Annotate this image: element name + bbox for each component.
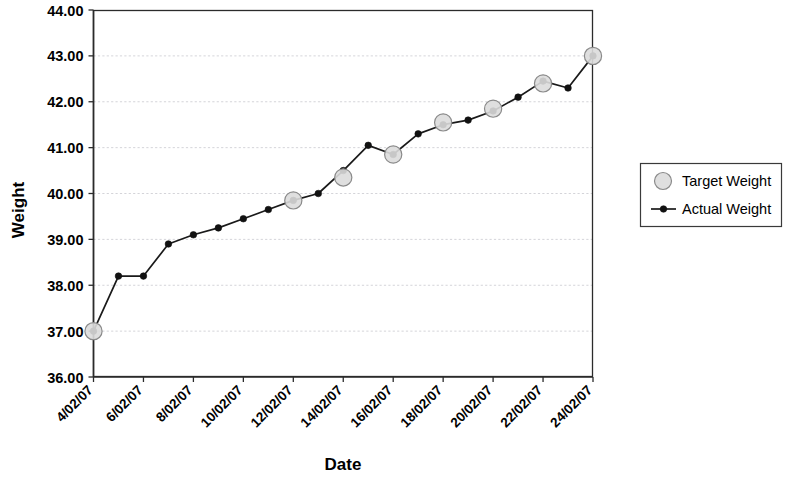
x-tick-label: 22/02/07	[497, 383, 545, 431]
x-axis-title: Date	[325, 455, 362, 474]
data-point-actual-weight	[565, 85, 572, 92]
data-point-actual-weight	[365, 142, 372, 149]
y-tick-label: 36.00	[47, 370, 83, 386]
data-point-actual-weight	[465, 117, 472, 124]
x-tick-label: 8/02/07	[153, 383, 195, 425]
legend-actual-weight-marker	[660, 206, 667, 213]
data-point-target-weight	[385, 146, 402, 163]
data-point-target-weight	[335, 169, 352, 186]
data-point-target-weight	[435, 114, 452, 131]
x-axis-title-text: Date	[325, 455, 362, 474]
legend-label-target-weight: Target Weight	[682, 173, 771, 189]
data-point-actual-weight	[240, 215, 247, 222]
y-tick-label: 39.00	[47, 232, 83, 248]
data-point-target-weight	[485, 100, 502, 117]
y-tick-labels: 36.0037.0038.0039.0040.0041.0042.0043.00…	[47, 3, 83, 386]
data-point-actual-weight	[190, 231, 197, 238]
x-tick-label: 4/02/07	[53, 383, 95, 425]
data-point-actual-weight	[415, 131, 422, 138]
y-tick-label: 40.00	[47, 186, 83, 202]
legend-target-weight-marker	[655, 173, 672, 190]
legend-label-actual-weight: Actual Weight	[682, 201, 771, 217]
series-target-weight-markers	[85, 47, 602, 339]
data-point-actual-weight	[265, 206, 272, 213]
x-tick-label: 10/02/07	[198, 383, 246, 431]
data-point-actual-weight	[115, 273, 122, 280]
data-point-actual-weight	[165, 241, 172, 248]
data-point-target-weight	[85, 323, 102, 340]
legend: Target Weight Actual Weight	[641, 164, 782, 227]
weight-chart: 36.0037.0038.0039.0040.0041.0042.0043.00…	[0, 0, 787, 486]
y-tick-label: 44.00	[47, 3, 83, 19]
y-tick-label: 43.00	[47, 48, 83, 64]
data-point-target-weight	[285, 192, 302, 209]
y-tick-label: 42.00	[47, 94, 83, 110]
data-point-target-weight	[534, 75, 551, 92]
x-tick-label: 16/02/07	[348, 383, 396, 431]
x-tick-label: 24/02/07	[547, 383, 595, 431]
y-tick-label: 38.00	[47, 278, 83, 294]
x-tick-label: 14/02/07	[298, 383, 346, 431]
x-tick-label: 12/02/07	[248, 383, 296, 431]
y-axis-title: Weight	[9, 181, 28, 238]
y-tick-label: 41.00	[47, 140, 83, 156]
chart-canvas: 36.0037.0038.0039.0040.0041.0042.0043.00…	[0, 0, 787, 486]
y-tick-label: 37.00	[47, 324, 83, 340]
x-tick-label: 6/02/07	[103, 383, 145, 425]
x-tick-label: 20/02/07	[447, 383, 495, 431]
x-tick-labels: 4/02/076/02/078/02/0710/02/0712/02/0714/…	[53, 383, 595, 431]
y-axis-title-text: Weight	[9, 181, 28, 238]
data-point-actual-weight	[315, 190, 322, 197]
data-point-actual-weight	[140, 273, 147, 280]
data-point-actual-weight	[215, 225, 222, 232]
data-point-actual-weight	[515, 94, 522, 101]
data-point-target-weight	[584, 47, 601, 64]
x-tick-label: 18/02/07	[397, 383, 445, 431]
